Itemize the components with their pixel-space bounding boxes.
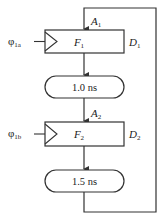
delay-block-1: 1.0 ns <box>45 76 124 98</box>
clock-label-1: φ1a <box>8 35 22 49</box>
input-label-a2: A2 <box>90 107 102 121</box>
clock-label-2: φ1b <box>8 127 22 141</box>
delay-label-2: 1.5 ns <box>72 176 97 187</box>
pipeline-diagram: F1 φ1a A1 D1 1.0 ns F2 φ1b A2 D2 1.5 ns <box>0 0 164 222</box>
delay-block-2: 1.5 ns <box>45 170 124 192</box>
output-label-d2: D2 <box>128 128 141 142</box>
delay-label-1: 1.0 ns <box>72 82 97 93</box>
register-f1: F1 <box>45 30 124 53</box>
output-label-d1: D1 <box>128 36 141 50</box>
input-label-a1: A1 <box>90 15 102 29</box>
register-f2: F2 <box>45 122 124 146</box>
